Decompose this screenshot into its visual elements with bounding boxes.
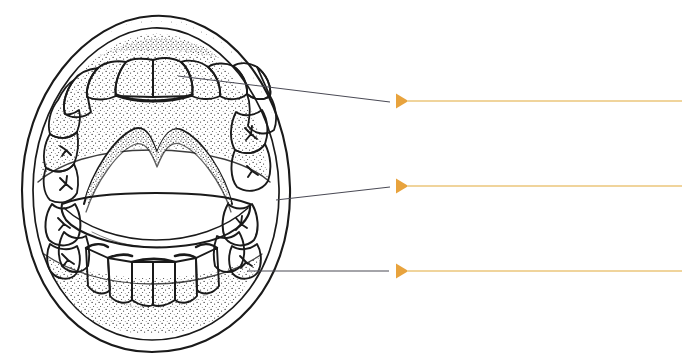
diagram-canvas [0,0,694,363]
callout-3-label[interactable] [414,251,682,269]
callout-1-label[interactable] [414,81,682,99]
callout-2-label[interactable] [414,166,682,184]
